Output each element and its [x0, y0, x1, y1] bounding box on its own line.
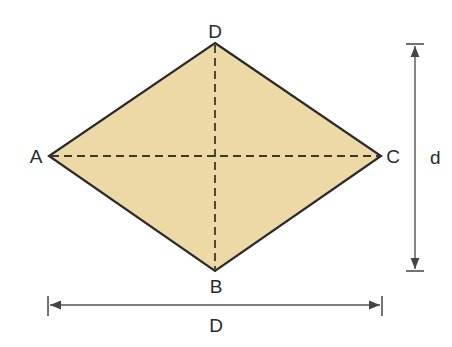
dimension-label-d-large: D [209, 315, 223, 336]
vertex-label-a: A [30, 146, 43, 167]
horizontal-dimension [48, 296, 382, 316]
vertex-label-c: C [386, 146, 400, 167]
rhombus-diagram: D A C B d D [0, 0, 452, 347]
vertex-label-b: B [210, 276, 223, 297]
dimension-label-d-small: d [430, 147, 441, 168]
vertex-label-d: D [208, 21, 222, 42]
vertical-dimension [406, 44, 424, 271]
